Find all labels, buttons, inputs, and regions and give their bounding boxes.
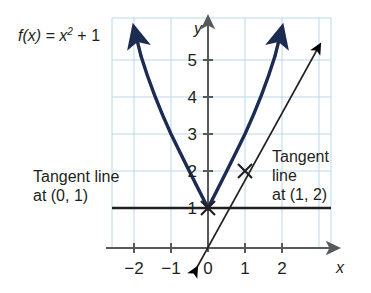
tangent-at-0-1-label: Tangent line at (0, 1) [33,168,119,206]
x-tick-label-minus2: −2 [124,259,143,278]
tangent-at-1-2-line3: at (1, 2) [272,186,329,205]
function-equation-suffix: + 1 [73,27,100,44]
function-equation-label: f(x) = x2 + 1 [18,26,100,46]
y-axis-label: y [193,20,203,37]
x-tick-label-minus1: −1 [161,259,180,278]
tangent-at-1-2-label: Tangent line at (1, 2) [272,148,329,205]
y-tick-label-2: 2 [188,162,197,181]
y-tick-label-4: 4 [188,88,197,107]
tangent-at-1-2-line2: line [272,167,329,186]
x-tick-label-0: 0 [203,259,212,278]
x-tick-label-2: 2 [277,259,286,278]
y-tick-label-3: 3 [188,125,197,144]
y-tick-label-1: 1 [188,199,197,218]
tangent-at-0-1-line1: Tangent line [33,168,119,187]
x-axis-label: x [335,259,345,276]
plot-background [112,18,331,248]
tangent-at-0-1-line2: at (0, 1) [33,187,119,206]
x-tick-label-1: 1 [240,259,249,278]
function-equation-prefix: f(x) = x [18,27,67,44]
y-tick-label-5: 5 [188,51,197,70]
tangent-at-1-2-line1: Tangent [272,148,329,167]
